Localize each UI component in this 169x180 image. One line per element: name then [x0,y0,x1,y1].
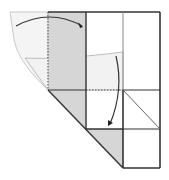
gray-strip [48,12,86,90]
origami-diagram [0,0,169,180]
diagram-canvas [0,0,169,180]
arrowhead-down [108,120,113,126]
